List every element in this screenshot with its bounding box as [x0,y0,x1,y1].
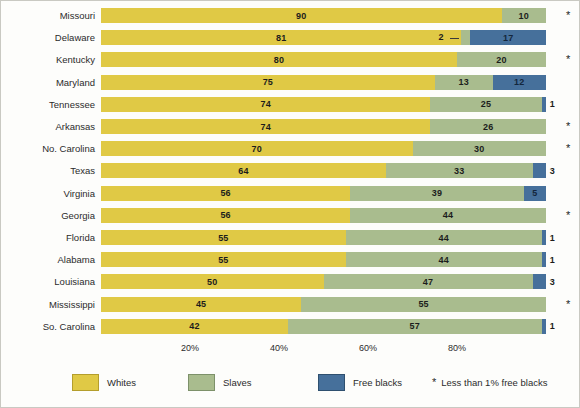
bar-segment-whites: 64 [101,163,386,178]
bar-value-whites: 55 [218,255,228,265]
bar-row: 74251 [101,97,546,112]
y-axis-label-arkansas: Arkansas [0,119,95,134]
y-axis-label-texas: Texas [0,163,95,178]
y-axis-label-no-carolina: No. Carolina [0,141,95,156]
bar-value-free-blacks: 5 [532,188,537,198]
bar-value-whites: 74 [260,122,270,132]
bar-segment-free-blacks: 12 [493,75,546,90]
bar-segment-free-blacks: 1 [542,252,546,267]
bar-value-whites: 56 [220,188,230,198]
y-axis-label-so-carolina: So. Carolina [0,319,95,334]
bar-segment-free-blacks: 3 [533,163,546,178]
bar-value-free-blacks: 17 [503,33,513,43]
bar-value-slaves: 44 [438,233,448,243]
bar-value-slaves: 13 [458,77,468,87]
bar-value-slaves: 30 [474,144,484,154]
bar-segment-free-blacks: 5 [524,186,546,201]
bar-row: 7030 [101,141,546,156]
y-axis-category-labels: MissouriDelawareKentuckyMarylandTennesse… [0,8,95,341]
legend-swatch-free [318,374,345,391]
y-axis-label-alabama: Alabama [0,252,95,267]
bar-segment-slaves: 25 [430,97,541,112]
y-axis-label-missouri: Missouri [0,8,95,23]
asterisk-marker: * [566,297,570,312]
legend-label-whites: Whites [107,377,136,388]
asterisk-marker: * [566,208,570,223]
bar-row: 5644 [101,208,546,223]
bar-segment-whites: 80 [101,52,457,67]
x-axis-tick-label: 40% [270,343,288,353]
bar-row: 55441 [101,252,546,267]
bar-row: 81172 [101,30,546,45]
bar-segment-slaves [461,30,470,45]
y-axis-label-georgia: Georgia [0,208,95,223]
bar-segment-slaves: 33 [386,163,533,178]
bar-value-slaves: 25 [481,99,491,109]
bar-value-whites: 50 [207,277,217,287]
x-axis-tick-label: 20% [181,343,199,353]
bar-segment-whites: 55 [101,252,346,267]
bar-value-whites: 70 [252,144,262,154]
y-axis-label-maryland: Maryland [0,75,95,90]
y-axis-label-delaware: Delaware [0,30,95,45]
legend-item-whites: Whites [72,372,136,392]
bar-segment-slaves: 44 [346,252,542,267]
bar-segment-slaves: 20 [457,52,546,67]
bar-value-free-blacks: 12 [514,77,524,87]
legend-label-free: Free blacks [353,377,402,388]
chart-legend: WhitesSlavesFree blacks*Less than 1% fre… [0,372,580,398]
bar-segment-free-blacks: 1 [542,230,546,245]
legend-item-free: Free blacks [318,372,402,392]
leader-line [450,38,459,39]
bar-value-slaves: 20 [496,55,506,65]
bar-value-slaves: 2 [438,30,443,45]
bar-segment-free-blacks: 1 [542,97,546,112]
legend-label-slaves: Slaves [223,377,252,388]
bar-value-whites: 90 [296,11,306,21]
bar-segment-whites: 90 [101,8,502,23]
bar-segment-whites: 56 [101,186,350,201]
legend-footnote: *Less than 1% free blacks [432,372,547,392]
bar-row: 55441 [101,230,546,245]
asterisk-marker: * [566,141,570,156]
bar-value-free-blacks: 1 [550,255,555,265]
bar-value-free-blacks: 3 [550,277,555,287]
bar-segment-slaves: 47 [324,274,533,289]
bar-segment-whites: 74 [101,119,430,134]
y-axis-label-tennessee: Tennessee [0,97,95,112]
bar-row: 50473 [101,274,546,289]
x-axis: 20%40%60%80% [101,343,546,359]
bar-value-whites: 75 [263,77,273,87]
bar-segment-slaves: 44 [350,208,546,223]
bar-value-whites: 55 [218,233,228,243]
bar-value-slaves: 57 [409,321,419,331]
bar-segment-whites: 70 [101,141,413,156]
bar-row: 8020 [101,52,546,67]
bar-segment-slaves: 26 [430,119,546,134]
bar-value-slaves: 55 [418,299,428,309]
y-axis-label-kentucky: Kentucky [0,52,95,67]
y-axis-label-louisiana: Louisiana [0,274,95,289]
bar-row: 751312 [101,75,546,90]
bar-value-slaves: 10 [519,11,529,21]
bar-segment-slaves: 13 [435,75,493,90]
bar-value-slaves: 26 [483,122,493,132]
bar-segment-slaves: 57 [288,319,542,334]
bar-row: 9010 [101,8,546,23]
bar-segment-slaves: 55 [301,297,546,312]
bar-value-whites: 56 [220,210,230,220]
bar-row: 4555 [101,297,546,312]
bar-segment-whites: 56 [101,208,350,223]
bar-segment-free-blacks: 3 [533,274,546,289]
bar-segment-slaves: 39 [350,186,524,201]
bar-segment-whites: 74 [101,97,430,112]
bar-segment-whites: 55 [101,230,346,245]
y-axis-label-mississippi: Mississippi [0,297,95,312]
bar-segment-slaves: 30 [413,141,547,156]
bar-value-free-blacks: 1 [550,233,555,243]
bar-value-whites: 64 [238,166,248,176]
bar-value-whites: 74 [260,99,270,109]
x-axis-tick-label: 60% [359,343,377,353]
y-axis-label-virginia: Virginia [0,186,95,201]
bar-value-free-blacks: 1 [550,321,555,331]
